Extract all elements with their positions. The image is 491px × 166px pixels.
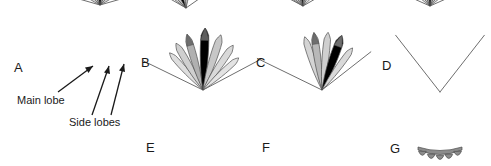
- panel-letter-a: A: [14, 60, 23, 75]
- panel-letter-e: E: [146, 140, 155, 155]
- main-lobe-label: Main lobe: [17, 94, 65, 106]
- panel-letter-f: F: [262, 140, 270, 155]
- panel-letter-d: D: [382, 58, 391, 73]
- radiation-pattern-svg: Main lobe Side lobes ABCDEFG: [0, 0, 491, 166]
- panel-letter-g: G: [390, 141, 400, 156]
- figure-background: [0, 0, 491, 166]
- radiation-pattern-figure: Main lobe Side lobes ABCDEFG: [0, 0, 491, 166]
- panel-letter-b: B: [141, 55, 150, 70]
- side-lobes-label: Side lobes: [69, 116, 121, 128]
- panel-letter-c: C: [256, 55, 265, 70]
